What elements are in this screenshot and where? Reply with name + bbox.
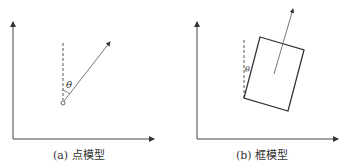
direction-arrow (64, 42, 110, 101)
diagram-canvas (0, 0, 345, 166)
theta-label-b: θ (245, 65, 250, 74)
panel-a-point-model (13, 22, 154, 139)
angle-arc (63, 90, 70, 94)
point-marker (61, 101, 65, 105)
caption-b: (b) 框模型 (236, 146, 288, 162)
theta-label-a: θ (66, 79, 72, 90)
panel-b-box-model (197, 9, 338, 139)
caption-a: (a) 点模型 (53, 146, 105, 162)
